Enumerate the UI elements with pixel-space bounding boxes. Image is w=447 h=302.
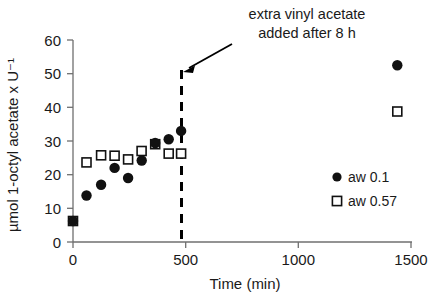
legend-label-aw-057: aw 0.57 [348, 193, 397, 209]
chart-container: 60 50 40 30 20 10 0 0 500 1000 1500 Time… [0, 0, 447, 302]
scatter-plot: 60 50 40 30 20 10 0 0 500 1000 1500 Time… [0, 0, 447, 302]
x-tick-label-1000: 1000 [282, 251, 315, 268]
chart-legend: aw 0.1 aw 0.57 [332, 169, 397, 209]
y-tick-label-50: 50 [44, 65, 61, 82]
annotation-line-2: added after 8 h [258, 25, 356, 41]
x-tick-label-0: 0 [69, 251, 77, 268]
y-tick-label-60: 60 [44, 32, 61, 49]
legend-marker-open-square-icon [332, 196, 341, 205]
y-axis-title: µmol 1-octyl acetate x U⁻¹ [4, 58, 21, 232]
y-tick-label-30: 30 [44, 133, 61, 150]
x-tick-label-500: 500 [173, 251, 198, 268]
legend-marker-filled-circle-icon [332, 172, 341, 181]
y-tick-label-0: 0 [53, 234, 61, 251]
x-axis-ticks [73, 242, 411, 248]
y-tick-label-40: 40 [44, 99, 61, 116]
y-axis-ticks [67, 40, 73, 242]
x-tick-label-1500: 1500 [394, 251, 427, 268]
annotation-arrow-head [183, 66, 195, 74]
x-axis-title: Time (min) [209, 275, 280, 292]
y-tick-label-10: 10 [44, 200, 61, 217]
y-tick-label-20: 20 [44, 166, 61, 183]
annotation-arrow-line [189, 44, 232, 68]
annotation-line-1: extra vinyl acetate [249, 6, 366, 22]
legend-label-aw-01: aw 0.1 [348, 169, 389, 185]
